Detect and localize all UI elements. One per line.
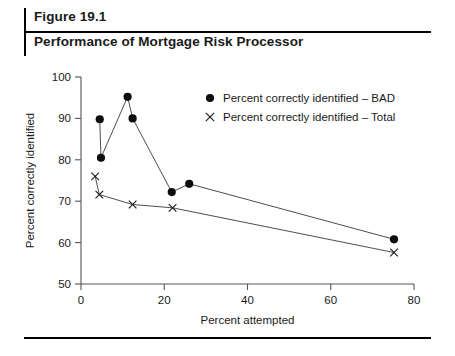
- x-axis-title: Percent attempted: [201, 314, 295, 326]
- data-point-bad: [168, 188, 176, 196]
- legend-label: Percent correctly identified – Total: [223, 111, 395, 123]
- y-axis-title: Percent correctly identified: [24, 113, 36, 249]
- x-tick-label: 0: [78, 294, 84, 306]
- y-tick-label: 80: [58, 154, 71, 166]
- y-tick-label: 60: [58, 237, 71, 249]
- series-line-1: [95, 176, 394, 252]
- legend-label: Percent correctly identified – BAD: [223, 92, 395, 104]
- y-tick-label: 90: [58, 112, 71, 124]
- data-point-bad: [97, 154, 105, 162]
- data-point-bad: [390, 235, 398, 243]
- footer-rule: [24, 337, 431, 339]
- data-point-bad: [96, 115, 104, 123]
- chart-plot-area: 5060708090100020406080 Percent correctly…: [0, 0, 455, 356]
- data-point-bad: [185, 180, 193, 188]
- data-point-bad: [129, 114, 137, 122]
- legend-marker-bad: [206, 94, 214, 102]
- legend-group: Percent correctly identified – BADPercen…: [206, 92, 396, 123]
- x-tick-label: 80: [408, 294, 421, 306]
- y-tick-label: 70: [58, 195, 71, 207]
- axes-group: 5060708090100020406080: [52, 71, 421, 306]
- x-tick-label: 60: [324, 294, 337, 306]
- x-tick-label: 40: [241, 294, 254, 306]
- chart-svg: 5060708090100020406080 Percent correctly…: [0, 0, 455, 356]
- y-tick-label: 100: [52, 71, 71, 83]
- data-point-bad: [124, 93, 132, 101]
- y-tick-label: 50: [58, 278, 71, 290]
- x-tick-label: 20: [158, 294, 171, 306]
